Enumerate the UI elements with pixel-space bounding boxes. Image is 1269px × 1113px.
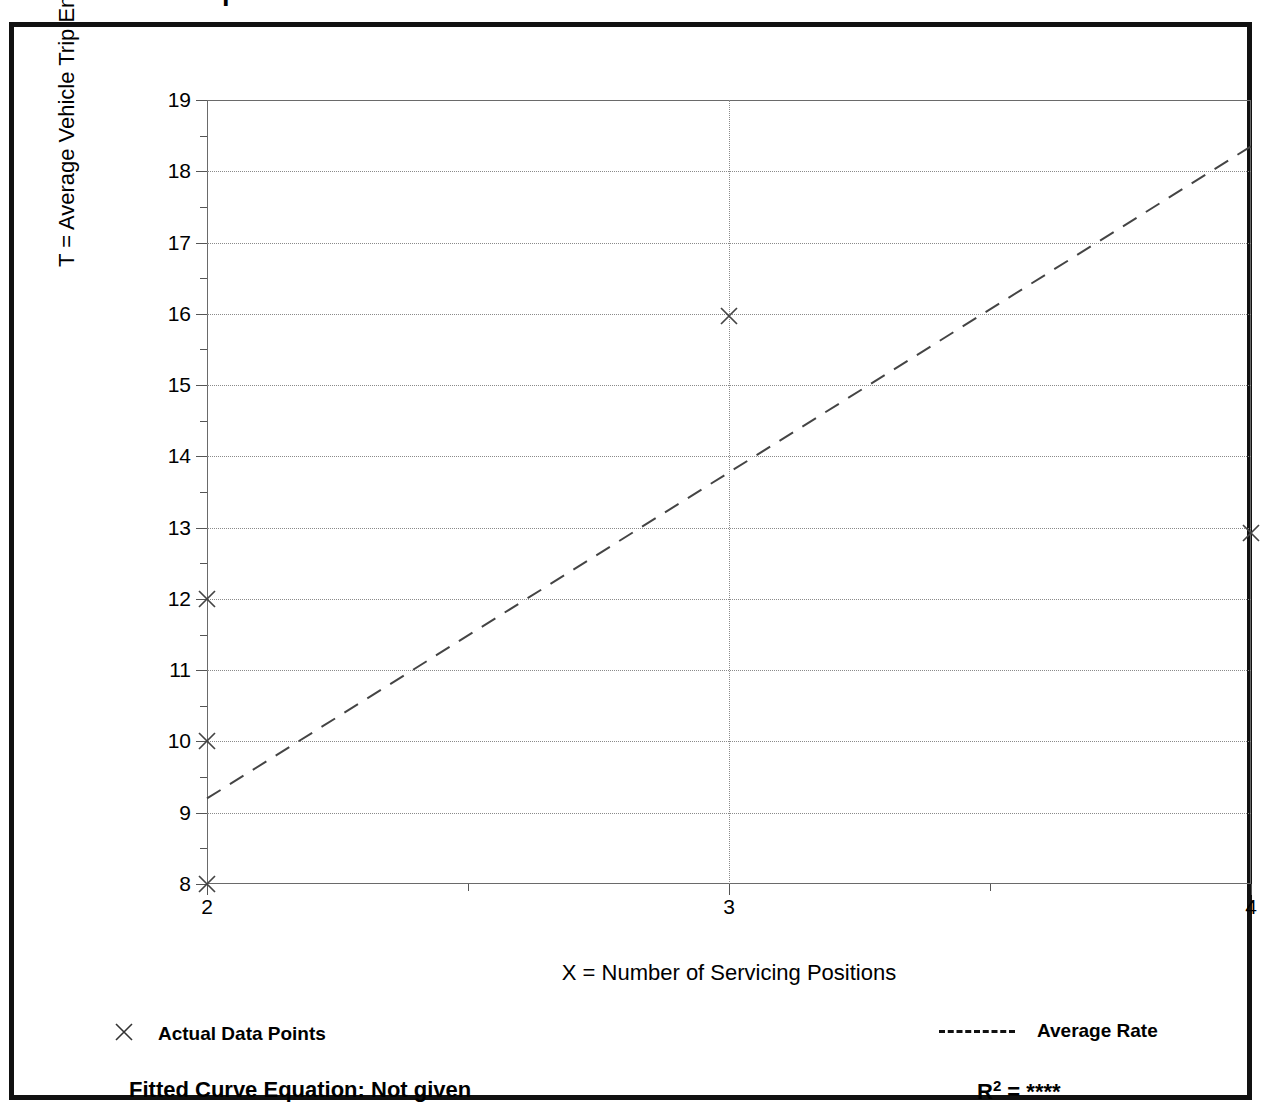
- x-axis-title: X = Number of Servicing Positions: [207, 960, 1251, 986]
- tick-y-12: [196, 599, 207, 600]
- x-tick-label-2: 2: [187, 895, 227, 919]
- legend-dashed-line-icon: [939, 1030, 1015, 1033]
- y-tick-label-14: 14: [151, 444, 191, 468]
- x-tick-label-3: 3: [709, 895, 749, 919]
- tick-y-minor-9.5: [200, 777, 207, 778]
- tick-y-16: [196, 314, 207, 315]
- tick-y-8: [196, 884, 207, 885]
- tick-x-2: [207, 884, 208, 895]
- tick-y-10: [196, 741, 207, 742]
- legend-actual-data-points: Actual Data Points: [112, 1020, 326, 1048]
- average-rate-trend-line: [207, 100, 1251, 884]
- tick-y-13: [196, 528, 207, 529]
- figure-frame: T = Average Vehicle Trip Ends X = Number…: [9, 22, 1252, 1100]
- y-tick-label-19: 19: [151, 88, 191, 112]
- tick-y-minor-15.5: [200, 349, 207, 350]
- y-tick-label-8: 8: [151, 872, 191, 896]
- y-tick-label-13: 13: [151, 516, 191, 540]
- y-tick-label-12: 12: [151, 587, 191, 611]
- tick-y-minor-12.5: [200, 563, 207, 564]
- tick-y-minor-8.5: [200, 848, 207, 849]
- y-tick-label-18: 18: [151, 159, 191, 183]
- tick-y-minor-11.5: [200, 635, 207, 636]
- tick-y-minor-13.5: [200, 492, 207, 493]
- legend-average-rate-label: Average Rate: [1037, 1020, 1158, 1042]
- tick-x-minor-2.5: [468, 884, 469, 891]
- tick-y-14: [196, 456, 207, 457]
- tick-y-minor-16.5: [200, 278, 207, 279]
- tick-y-minor-14.5: [200, 421, 207, 422]
- r-squared-equals: =: [1007, 1079, 1020, 1104]
- r-squared-exponent: 2: [993, 1077, 1001, 1094]
- y-tick-label-15: 15: [151, 373, 191, 397]
- tick-y-15: [196, 385, 207, 386]
- tick-y-minor-17.5: [200, 207, 207, 208]
- legend-average-rate: Average Rate: [939, 1020, 1158, 1042]
- legend-actual-data-points-label: Actual Data Points: [158, 1023, 326, 1045]
- plot-area: 8910111213141516171819 234: [207, 100, 1251, 884]
- tick-y-17: [196, 243, 207, 244]
- legend-x-marker-icon: [112, 1020, 136, 1048]
- y-tick-label-11: 11: [151, 658, 191, 682]
- y-tick-label-17: 17: [151, 231, 191, 255]
- tick-y-minor-18.5: [200, 136, 207, 137]
- tick-y-18: [196, 171, 207, 172]
- tick-y-19: [196, 100, 207, 101]
- fitted-curve-equation: Fitted Curve Equation: Not given: [129, 1077, 471, 1103]
- tick-x-minor-3.5: [990, 884, 991, 891]
- r-squared-label: R: [977, 1079, 993, 1104]
- tick-y-minor-10.5: [200, 706, 207, 707]
- r-squared-annotation: R2 = ****: [977, 1077, 1061, 1105]
- tick-y-11: [196, 670, 207, 671]
- tick-x-3: [729, 884, 730, 895]
- y-tick-label-9: 9: [151, 801, 191, 825]
- y-tick-label-16: 16: [151, 302, 191, 326]
- y-tick-label-10: 10: [151, 729, 191, 753]
- tick-x-4: [1251, 884, 1252, 895]
- x-tick-label-4: 4: [1231, 895, 1269, 919]
- tick-y-9: [196, 813, 207, 814]
- r-squared-value: ****: [1026, 1079, 1060, 1104]
- y-axis-title: T = Average Vehicle Trip Ends: [54, 0, 80, 267]
